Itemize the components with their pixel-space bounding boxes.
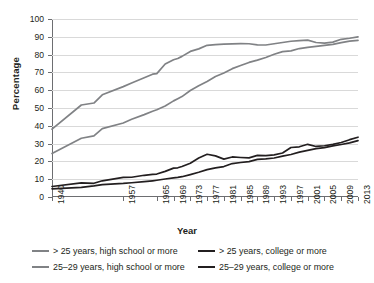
- x-tick-mark: [207, 197, 208, 201]
- series-line: [52, 137, 358, 186]
- y-tick-label: 10: [18, 174, 44, 184]
- y-tick-label: 20: [18, 156, 44, 166]
- series-line: [52, 40, 358, 153]
- y-tick-label: 70: [18, 67, 44, 77]
- y-tick-mark: [48, 90, 52, 91]
- y-tick-mark: [48, 72, 52, 73]
- legend-label: 25–29 years, college or more: [219, 262, 334, 272]
- x-tick-mark: [274, 197, 275, 201]
- y-tick-mark: [48, 144, 52, 145]
- x-tick-mark: [224, 197, 225, 201]
- x-axis-title: Year: [0, 225, 374, 236]
- plot-wrapper: 0102030405060708090100 19401957196519691…: [52, 19, 358, 197]
- legend-entry[interactable]: > 25 years, college or more: [198, 246, 362, 256]
- legend-entry[interactable]: > 25 years, high school or more: [32, 246, 198, 256]
- legend: > 25 years, high school or more> 25 year…: [32, 243, 362, 275]
- legend-label: > 25 years, high school or more: [53, 246, 178, 256]
- x-tick-mark: [257, 197, 258, 201]
- y-tick-mark: [48, 197, 52, 198]
- chart-figure: Percentage 0102030405060708090100 194019…: [0, 0, 374, 283]
- y-tick-label: 60: [18, 85, 44, 95]
- legend-label: > 25 years, college or more: [219, 246, 327, 256]
- legend-label: 25–29 years, high school or more: [53, 262, 185, 272]
- x-tick-mark: [190, 197, 191, 201]
- x-tick-mark: [291, 197, 292, 201]
- x-tick-mark: [308, 197, 309, 201]
- y-tick-mark: [48, 126, 52, 127]
- series-layer: [52, 19, 358, 197]
- legend-entry[interactable]: 25–29 years, college or more: [198, 262, 362, 272]
- y-tick-label: 50: [18, 103, 44, 113]
- y-tick-mark: [48, 37, 52, 38]
- legend-line-swatch: [198, 250, 215, 252]
- y-tick-label: 0: [18, 192, 44, 202]
- y-tick-mark: [48, 19, 52, 20]
- x-tick-mark: [123, 197, 124, 201]
- y-tick-label: 100: [18, 14, 44, 24]
- y-tick-mark: [48, 108, 52, 109]
- x-tick-mark: [324, 197, 325, 201]
- y-tick-mark: [48, 55, 52, 56]
- legend-line-swatch: [198, 266, 215, 268]
- legend-line-swatch: [32, 250, 49, 252]
- x-tick-mark: [157, 197, 158, 201]
- x-tick-mark: [52, 197, 53, 201]
- y-tick-mark: [48, 161, 52, 162]
- y-tick-mark: [48, 179, 52, 180]
- y-tick-label: 30: [18, 139, 44, 149]
- y-tick-label: 40: [18, 121, 44, 131]
- y-tick-label: 80: [18, 50, 44, 60]
- x-tick-mark: [241, 197, 242, 201]
- x-tick-mark: [341, 197, 342, 201]
- legend-line-swatch: [32, 266, 49, 268]
- x-tick-mark: [358, 197, 359, 201]
- legend-entry[interactable]: 25–29 years, high school or more: [32, 262, 198, 272]
- x-tick-label: 2013: [362, 185, 372, 204]
- y-tick-label: 90: [18, 32, 44, 42]
- x-tick-mark: [174, 197, 175, 201]
